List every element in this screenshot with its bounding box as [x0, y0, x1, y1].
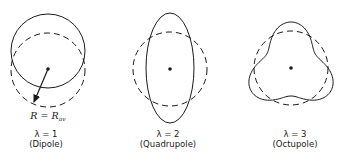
- dipole-name-label: (Dipole): [29, 140, 63, 149]
- octupole-name-label: (Octupole): [273, 140, 318, 149]
- octupole-lambda-label: λ = 3: [284, 130, 307, 139]
- quadrupole-panel: [133, 13, 207, 123]
- quadrupole-lambda-label: λ = 2: [157, 130, 180, 139]
- dipole-lambda-label: λ = 1: [35, 130, 58, 139]
- octupole-deformed-shape: [249, 22, 333, 100]
- dipole-panel: [11, 14, 85, 107]
- radius-arrow: [34, 69, 48, 102]
- dipole-deformed-circle: [11, 14, 85, 88]
- radius-label: R = Rav: [30, 111, 65, 122]
- octupole-panel: [249, 22, 333, 105]
- octupole-center-dot: [289, 66, 293, 70]
- quadrupole-center-dot: [168, 67, 172, 71]
- quadrupole-name-label: (Quadrupole): [140, 140, 196, 149]
